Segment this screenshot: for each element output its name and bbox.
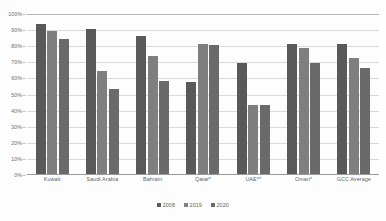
y-axis-tick-label: 80% <box>11 43 22 49</box>
x-axis-category-label: Kuwait <box>27 176 77 190</box>
chart-legend: 200820192020 <box>0 198 386 212</box>
x-axis-category-label: Bahrain <box>128 176 178 190</box>
legend-swatch-icon <box>211 203 215 207</box>
bar <box>36 24 46 174</box>
x-axis-line <box>27 174 379 175</box>
y-axis-tick-label: 90% <box>11 27 22 33</box>
legend-item[interactable]: 2019 <box>184 202 202 208</box>
y-axis-tick <box>22 127 26 128</box>
y-axis-tick-label: 20% <box>11 140 22 146</box>
x-axis-category-label: UAE** <box>228 176 278 190</box>
y-axis-tick <box>22 14 26 15</box>
x-axis-category-label: Saudi Arabia <box>77 176 127 190</box>
legend-item[interactable]: 2020 <box>211 202 229 208</box>
x-axis-category-label: GCC Average <box>329 176 379 190</box>
bar-group <box>128 14 178 174</box>
y-axis-tick <box>22 62 26 63</box>
bar <box>186 82 196 174</box>
bar <box>310 63 320 174</box>
bar <box>237 63 247 174</box>
bar <box>198 44 208 174</box>
y-axis-tick <box>22 95 26 96</box>
y-axis-tick-label: 60% <box>11 75 22 81</box>
y-axis-tick <box>22 143 26 144</box>
bar <box>86 29 96 174</box>
bar <box>260 105 270 174</box>
bar <box>47 31 57 174</box>
plot-canvas <box>27 14 379 175</box>
legend-label: 2020 <box>216 202 228 208</box>
plot-area: 0%10%20%30%40%50%60%70%80%90%100% <box>0 0 386 196</box>
bar <box>59 39 69 174</box>
bar-group <box>27 14 77 174</box>
bar <box>159 81 169 174</box>
bar <box>337 44 347 174</box>
legend-label: 2008 <box>163 202 175 208</box>
y-axis-tick <box>22 159 26 160</box>
y-axis-tick-label: 10% <box>11 156 22 162</box>
y-axis-tick <box>22 111 26 112</box>
bar <box>148 56 158 174</box>
bar <box>349 58 359 174</box>
x-axis-category-label: Oman* <box>278 176 328 190</box>
legend-item[interactable]: 2008 <box>157 202 175 208</box>
bar <box>97 71 107 174</box>
y-axis-tick-label: 40% <box>11 108 22 114</box>
y-axis-tick <box>22 175 26 176</box>
bar-group <box>278 14 328 174</box>
y-axis-tick-label: 50% <box>11 92 22 98</box>
bar-group <box>228 14 278 174</box>
bar <box>248 105 258 174</box>
y-axis-tick <box>22 30 26 31</box>
x-axis-labels: KuwaitSaudi ArabiaBahrainQatar*UAE**Oman… <box>27 176 379 190</box>
y-axis-tick <box>22 46 26 47</box>
bar <box>299 48 309 174</box>
bar <box>136 36 146 174</box>
y-axis-tick-label: 70% <box>11 59 22 65</box>
bar-group <box>77 14 127 174</box>
legend-swatch-icon <box>157 203 161 207</box>
bar-group <box>329 14 379 174</box>
legend-swatch-icon <box>184 203 188 207</box>
bar-group <box>178 14 228 174</box>
bar <box>209 45 219 174</box>
x-axis-category-label: Qatar* <box>178 176 228 190</box>
y-axis-tick-label: 30% <box>11 124 22 130</box>
y-axis-tick <box>22 78 26 79</box>
y-axis-tick-label: 0% <box>14 172 22 178</box>
bar-chart: 0%10%20%30%40%50%60%70%80%90%100% Kuwait… <box>0 0 386 221</box>
bar <box>287 44 297 174</box>
bar <box>360 68 370 174</box>
y-axis-tick-label: 100% <box>8 11 22 17</box>
bar-groups <box>27 14 379 174</box>
y-axis: 0%10%20%30%40%50%60%70%80%90%100% <box>0 0 27 196</box>
legend-label: 2019 <box>190 202 202 208</box>
bar <box>109 89 119 174</box>
